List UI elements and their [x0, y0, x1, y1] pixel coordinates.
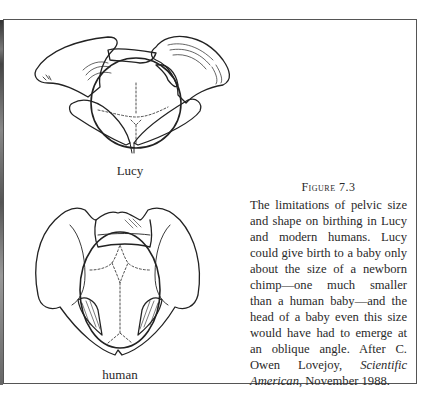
caption-text: The limitations of pelvic size and shape… [250, 198, 407, 372]
human-label: human [70, 367, 170, 383]
figure-caption: The limitations of pelvic size and shape… [250, 197, 407, 389]
human-pelvis-illustration [30, 195, 205, 360]
figure-number: Figure 7.3 [250, 180, 407, 195]
lucy-pelvis-illustration [28, 25, 233, 160]
lucy-label: Lucy [80, 163, 180, 179]
caption-date: , November 1988. [299, 374, 390, 388]
